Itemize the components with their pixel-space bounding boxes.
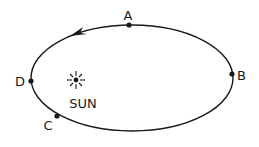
point-a-label: A	[124, 8, 133, 23]
point-b-label: B	[237, 68, 246, 83]
orbit-diagram: A B C D SUN	[0, 0, 259, 147]
point-c: C	[43, 113, 59, 133]
orbit-ellipse	[31, 25, 233, 131]
sun-label: SUN	[69, 96, 97, 111]
sun-icon	[67, 71, 85, 89]
point-c-label: C	[43, 118, 52, 133]
point-d-label: D	[15, 74, 25, 89]
